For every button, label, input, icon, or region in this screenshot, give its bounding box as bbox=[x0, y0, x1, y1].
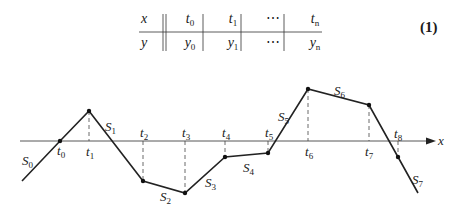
segment-label-s1: S1 bbox=[105, 120, 116, 138]
axis-arrow-icon bbox=[426, 138, 436, 145]
knot-label-t8: t8 bbox=[394, 127, 402, 145]
knot-label-t3: t3 bbox=[182, 126, 190, 144]
knot-label-t7: t7 bbox=[365, 145, 373, 163]
segment-label-s7: S7 bbox=[412, 173, 423, 191]
segment-label-s5: S5 bbox=[278, 110, 289, 128]
knot-label-t2: t2 bbox=[140, 126, 148, 144]
spline-diagram bbox=[0, 0, 459, 211]
knot-label-t0: t0 bbox=[57, 144, 65, 162]
table-rules bbox=[139, 14, 322, 51]
knot-label-t1: t1 bbox=[86, 145, 94, 163]
segment-label-s6: S6 bbox=[334, 84, 345, 102]
axis-label-x: x bbox=[438, 134, 444, 148]
knot-label-t4: t4 bbox=[222, 126, 230, 144]
segment-label-s3: S3 bbox=[205, 176, 216, 194]
segment-label-s2: S2 bbox=[160, 190, 171, 208]
segment-label-s4: S4 bbox=[243, 161, 254, 179]
knot-label-t5: t5 bbox=[265, 126, 273, 144]
segment-label-s0: S0 bbox=[22, 154, 33, 172]
knot-label-t6: t6 bbox=[305, 145, 313, 163]
